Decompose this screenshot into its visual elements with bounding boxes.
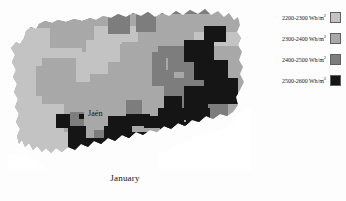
legend-swatch-2500-2600: [330, 75, 341, 86]
legend-label-text: 2400-2500 Wh/m: [282, 57, 324, 63]
legend-swatch-2400-2500: [330, 54, 341, 65]
choropleth-map: [8, 4, 252, 170]
legend-label-text: 2300-2400 Wh/m: [282, 36, 324, 42]
city-marker-icon: [79, 114, 84, 119]
region-class-2200-2300: [8, 96, 42, 152]
region-class-2500-2600: [194, 60, 228, 80]
map-outside-mask-south-west: [8, 154, 48, 170]
region-class-2500-2600: [124, 132, 164, 146]
region-class-2400-2500: [152, 52, 166, 72]
legend-label-exponent: 2: [324, 55, 326, 60]
legend-item-2200-2300: 2200-2300 Wh/m2: [253, 11, 341, 24]
legend-item-2500-2600: 2500-2600 Wh/m2: [253, 74, 341, 87]
legend-swatch-2200-2300: [330, 12, 341, 23]
solar-irradiation-figure: Jaén January 2200-2300 Wh/m2 2300-2400 W…: [0, 0, 346, 201]
region-class-2400-2500: [136, 12, 156, 32]
region-class-2400-2500: [130, 4, 210, 14]
legend-swatch-2300-2400: [330, 33, 341, 44]
region-class-2500-2600: [184, 86, 208, 108]
legend-item-2400-2500: 2400-2500 Wh/m2: [253, 53, 341, 66]
region-class-2500-2600: [56, 114, 70, 128]
region-class-2500-2600: [186, 108, 210, 130]
region-class-2200-2300: [8, 26, 50, 48]
region-class-2500-2600: [184, 40, 214, 62]
city-label-jaen: Jaén: [88, 109, 103, 119]
region-class-2300-2400: [24, 12, 114, 26]
region-class-2500-2600: [204, 78, 238, 104]
legend-label-exponent: 2: [324, 76, 326, 81]
legend-label-exponent: 2: [324, 34, 326, 39]
region-class-2500-2600: [204, 26, 226, 42]
legend-label-text: 2200-2300 Wh/m: [282, 15, 324, 21]
region-class-2400-2500: [108, 12, 130, 34]
region-class-2200-2300: [8, 66, 36, 96]
legend-item-2300-2400: 2300-2400 Wh/m2: [253, 32, 341, 45]
map-svg: [8, 4, 252, 170]
region-class-2300-2400: [42, 58, 76, 104]
region-class-2500-2600: [160, 122, 190, 142]
legend: 2200-2300 Wh/m2 2300-2400 Wh/m2 2400-250…: [253, 11, 341, 95]
legend-label-2400-2500: 2400-2500 Wh/m2: [282, 56, 326, 64]
legend-label-2300-2400: 2300-2400 Wh/m2: [282, 35, 326, 43]
region-class-2500-2600: [68, 126, 86, 156]
legend-label-text: 2500-2600 Wh/m: [282, 78, 324, 84]
region-class-2500-2600: [84, 138, 106, 156]
legend-label-exponent: 2: [324, 13, 326, 18]
legend-label-2500-2600: 2500-2600 Wh/m2: [282, 77, 326, 85]
legend-label-2200-2300: 2200-2300 Wh/m2: [282, 14, 326, 22]
figure-caption: January: [0, 172, 250, 184]
